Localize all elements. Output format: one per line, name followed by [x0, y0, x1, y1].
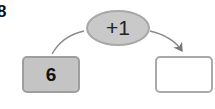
- input-number-box: 6: [22, 56, 80, 93]
- left-connector-line: [52, 31, 84, 54]
- answer-box[interactable]: [155, 56, 213, 93]
- input-value: 6: [46, 64, 57, 86]
- right-arrow-line: [150, 31, 182, 51]
- operation-oval: +1: [86, 10, 150, 46]
- operation-label: +1: [106, 16, 130, 40]
